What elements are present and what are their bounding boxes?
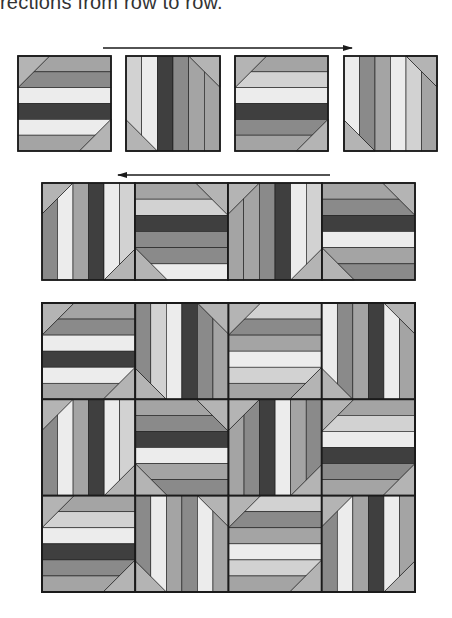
row2-block-2 [135, 183, 228, 280]
quilt-block-r2c3 [229, 399, 322, 495]
quilt-block-r3c3 [229, 496, 322, 592]
quilt-block-r1c4 [322, 303, 415, 399]
quilt-block-r2c4 [322, 399, 415, 495]
quilt-block-r3c2 [135, 496, 228, 592]
row1-block-3 [235, 56, 328, 151]
row1-block-2 [126, 56, 220, 151]
quilt-block-r1c1 [42, 303, 135, 399]
row2-block-3 [228, 183, 322, 280]
quilt-block-r2c2 [135, 399, 228, 495]
quilt-block-r2c1 [42, 399, 135, 495]
row1-block-1 [18, 56, 111, 151]
assembled-quilt [42, 303, 415, 592]
quilt-diagram [0, 0, 452, 618]
row2-block-1 [42, 183, 135, 280]
quilt-block-r1c2 [135, 303, 228, 399]
row1-block-4 [344, 56, 437, 151]
quilt-block-r3c1 [42, 496, 135, 592]
block-row-1 [18, 56, 437, 151]
block-row-2 [42, 183, 415, 280]
row2-block-4 [322, 183, 415, 280]
quilt-block-r1c3 [229, 303, 322, 399]
quilt-block-r3c4 [322, 496, 415, 592]
